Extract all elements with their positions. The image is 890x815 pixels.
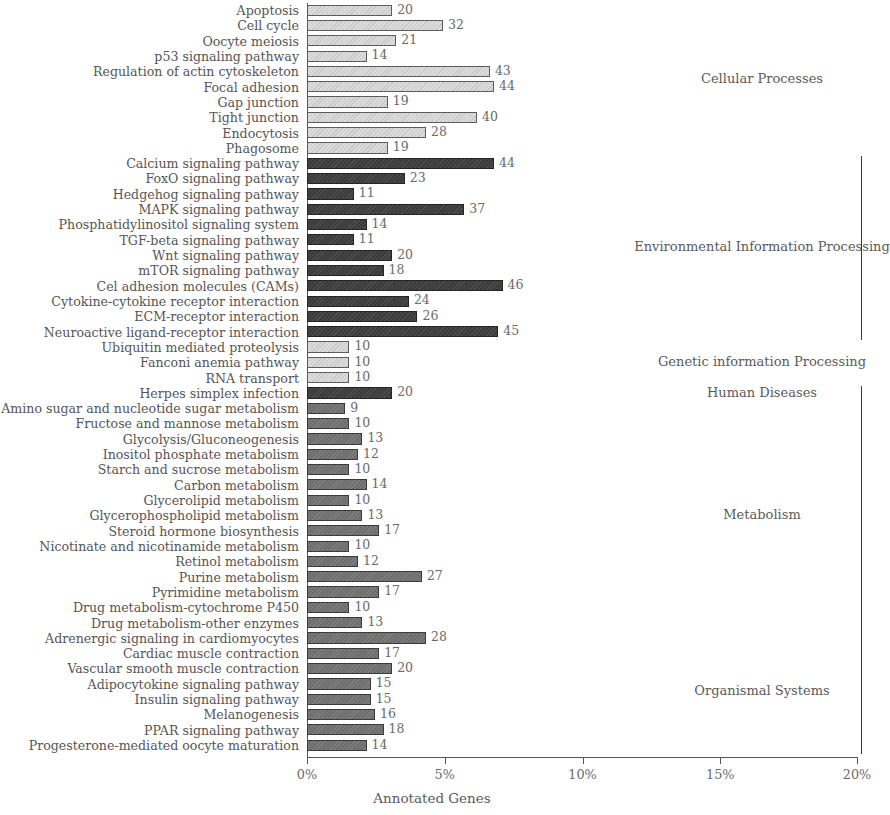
bar-value-label: 10: [354, 355, 370, 369]
pathway-label: Drug metabolism-cytochrome P450: [0, 600, 303, 615]
pathway-label: Cell cycle: [0, 18, 303, 33]
x-axis-tick: [720, 758, 721, 764]
bar-value-label: 13: [367, 431, 383, 445]
bar: [307, 96, 388, 107]
pathway-label: Melanogenesis: [0, 707, 303, 722]
bar: [307, 464, 349, 475]
pathway-label: Tight junction: [0, 110, 303, 125]
bar-value-label: 14: [372, 48, 388, 62]
pathway-label: Glycerolipid metabolism: [0, 493, 303, 508]
bar: [307, 510, 362, 521]
pathway-label: Ubiquitin mediated proteolysis: [0, 340, 303, 355]
bar-value-label: 14: [372, 738, 388, 752]
bar-value-label: 27: [427, 569, 443, 583]
bar-value-label: 10: [354, 600, 370, 614]
bar-value-label: 19: [393, 94, 409, 108]
pathway-label: Fanconi anemia pathway: [0, 355, 303, 370]
group-label: Cellular Processes: [701, 71, 823, 86]
pathway-label: Gap junction: [0, 95, 303, 110]
bar-value-label: 44: [499, 79, 515, 93]
bar: [307, 648, 379, 659]
bar: [307, 81, 494, 92]
group-label: Environmental Information Processing: [634, 239, 890, 254]
bar-value-label: 26: [422, 309, 438, 323]
x-axis-tick: [857, 758, 858, 764]
bar-value-label: 23: [410, 171, 426, 185]
bar: [307, 66, 490, 77]
bar: [307, 326, 498, 337]
pathway-label: Herpes simplex infection: [0, 386, 303, 401]
x-axis-title: Annotated Genes: [0, 790, 864, 806]
group-bracket: [861, 631, 862, 754]
bar: [307, 709, 375, 720]
x-axis: 0%5%10%15%20%: [307, 757, 858, 758]
bar: [307, 433, 362, 444]
bar: [307, 142, 388, 153]
pathway-label: Purine metabolism: [0, 570, 303, 585]
group-label: Human Diseases: [707, 385, 817, 400]
pathway-label: Amino sugar and nucleotide sugar metabol…: [0, 401, 303, 416]
x-axis-tick: [583, 758, 584, 764]
bar-value-label: 17: [384, 523, 400, 537]
bar: [307, 418, 349, 429]
bar: [307, 586, 379, 597]
bar: [307, 250, 392, 261]
bar: [307, 341, 349, 352]
bar-value-label: 14: [372, 217, 388, 231]
group-bracket: [861, 386, 862, 401]
bar-value-label: 28: [431, 125, 447, 139]
bar: [307, 449, 358, 460]
x-axis-tick: [307, 758, 308, 764]
pathway-label: Apoptosis: [0, 3, 303, 18]
pathway-label: FoxO signaling pathway: [0, 171, 303, 186]
bar: [307, 372, 349, 383]
bar-value-label: 17: [384, 646, 400, 660]
pathway-label: Vascular smooth muscle contraction: [0, 661, 303, 676]
bar: [307, 525, 379, 536]
bar-value-label: 15: [376, 692, 392, 706]
bar-value-label: 16: [380, 707, 396, 721]
bar: [307, 357, 349, 368]
pathway-label: Focal adhesion: [0, 80, 303, 95]
bar: [307, 403, 345, 414]
group-label: Genetic information Processing: [658, 354, 866, 369]
bar: [307, 265, 384, 276]
bar-value-label: 18: [389, 722, 405, 736]
bar: [307, 632, 426, 643]
group-bracket: [861, 401, 862, 631]
bar: [307, 112, 477, 123]
pathway-label: Insulin signaling pathway: [0, 692, 303, 707]
bar-value-label: 44: [499, 156, 515, 170]
x-axis-tick-label: 20%: [843, 767, 871, 782]
bar-value-label: 19: [393, 140, 409, 154]
pathway-label: Neuroactive ligand-receptor interaction: [0, 325, 303, 340]
bar-value-label: 43: [495, 64, 511, 78]
bar-value-label: 11: [359, 186, 375, 200]
bar: [307, 694, 371, 705]
bar: [307, 541, 349, 552]
bar: [307, 617, 362, 628]
bar: [307, 387, 392, 398]
pathway-label: Glycerophospholipid metabolism: [0, 508, 303, 523]
bar-value-label: 20: [397, 248, 413, 262]
bar: [307, 571, 422, 582]
pathway-label: MAPK signaling pathway: [0, 202, 303, 217]
bar-value-label: 10: [354, 493, 370, 507]
bar: [307, 663, 392, 674]
group-label: Organismal Systems: [694, 683, 829, 698]
bar: [307, 20, 443, 31]
bar-value-label: 46: [508, 278, 524, 292]
bar-value-label: 13: [367, 508, 383, 522]
bar-value-label: 20: [397, 3, 413, 17]
pathway-label: Pyrimidine metabolism: [0, 585, 303, 600]
pathway-label: Retinol metabolism: [0, 554, 303, 569]
x-axis-tick-label: 0%: [297, 767, 317, 782]
pathway-label: TGF-beta signaling pathway: [0, 233, 303, 248]
bar: [307, 204, 464, 215]
pathway-label: Fructose and mannose metabolism: [0, 416, 303, 431]
bar: [307, 5, 392, 16]
pathway-label: Steroid hormone biosynthesis: [0, 524, 303, 539]
bar-value-label: 13: [367, 615, 383, 629]
pathway-label: Wnt signaling pathway: [0, 248, 303, 263]
